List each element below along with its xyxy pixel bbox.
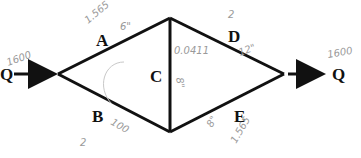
pipe-a [58,18,170,74]
pipe-network-diagram: Q Q A B C D E 1600 1600 1.565 6" 100 2 0… [0,0,361,158]
pipe-a-label: A [96,31,109,50]
pipe-e-note-2: 1.565 [228,115,252,145]
pipe-e [170,74,284,132]
pipe-a-note-1: 1.565 [82,0,111,26]
outlet-label: Q [332,65,345,84]
pipe-d-note-1: 2 [228,9,234,20]
inlet-flow-note: 1600 [5,49,33,68]
pipe-c-label: C [150,67,162,86]
pipe-c-note-1: 0.0411 [174,45,209,56]
pipe-c-note-2: 8" [174,76,187,89]
pipe-b-note-1: 100 [109,116,131,135]
outlet-flow-note: 1600 [326,45,353,60]
pipe-a-note-2: 6" [120,21,131,32]
pipe-b-label: B [92,107,103,126]
pipe-b-note-2: 2 [80,137,86,148]
pipe-d-label: D [228,27,240,46]
inlet-label: Q [0,65,13,84]
pipe-e-note-1: 8" [204,114,219,129]
